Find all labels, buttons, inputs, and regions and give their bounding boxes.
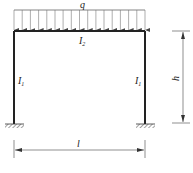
left-fixed-support xyxy=(5,124,24,128)
right-column-label: I1 xyxy=(134,75,141,87)
distributed-load xyxy=(14,10,145,30)
height-label: h xyxy=(170,76,181,81)
right-fixed-support xyxy=(136,124,155,128)
load-label: q xyxy=(80,0,85,10)
span-label: l xyxy=(77,138,80,149)
portal-frame-diagram: q I2 I1 I1 h l xyxy=(0,0,193,173)
beam-label: I2 xyxy=(78,35,85,47)
left-column-label: I1 xyxy=(17,75,24,87)
